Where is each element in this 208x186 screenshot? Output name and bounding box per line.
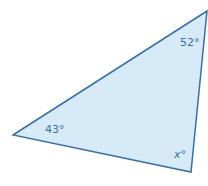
angle-label-bottom: x° <box>174 148 186 161</box>
triangle-diagram: 52° 43° x° <box>0 0 208 186</box>
angle-label-top: 52° <box>180 36 200 49</box>
angle-label-left: 43° <box>45 123 65 136</box>
